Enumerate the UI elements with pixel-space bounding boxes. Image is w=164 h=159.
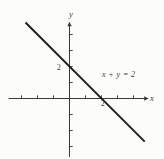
y-intercept-tick-label: 2 xyxy=(57,64,61,72)
plotted-line xyxy=(26,23,145,142)
x-axis-arrowhead xyxy=(144,96,149,100)
figure: y x 2 2 x + y = 2 xyxy=(0,0,164,159)
x-intercept-tick-label: 2 xyxy=(101,100,105,108)
plot-canvas xyxy=(0,0,164,159)
y-axis-label: y xyxy=(69,10,73,18)
equation-label: x + y = 2 xyxy=(102,71,136,79)
y-axis-arrowhead xyxy=(67,22,71,27)
x-axis-label: x xyxy=(150,94,154,102)
